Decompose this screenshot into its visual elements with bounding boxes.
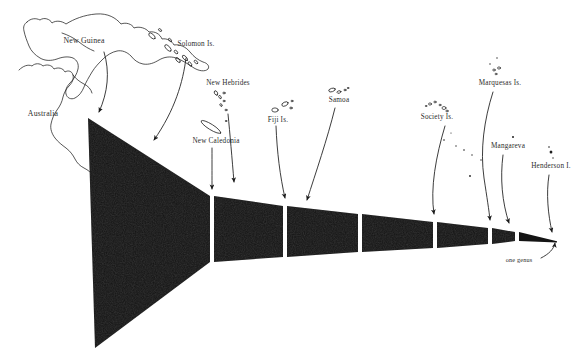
arrow-marquesas-is <box>482 92 493 220</box>
biogeography-figure <box>0 0 584 358</box>
arrow-one-genus <box>541 243 555 258</box>
henderson-island-shapes <box>548 146 554 159</box>
wedge-segment-7 <box>519 232 557 243</box>
new-caledonia-islet <box>225 120 227 121</box>
marquesas-islands-shapes <box>489 57 500 74</box>
label-one-genus: one genus <box>506 256 533 263</box>
new-guinea-outline <box>24 14 209 99</box>
arrow-new-guinea <box>99 52 107 112</box>
arrow-fiji-is <box>276 126 285 198</box>
arrow-solomon-is <box>154 58 186 140</box>
mangareva-shapes <box>512 136 514 138</box>
arrow-society-is <box>433 126 445 214</box>
arrow-mangareva <box>502 155 509 223</box>
label-new-guinea: New Guinea <box>63 36 104 45</box>
new-caledonia-shape <box>200 119 222 136</box>
new-hebrides-shapes <box>214 90 228 111</box>
society-islands-shapes <box>425 101 448 112</box>
label-new-hebrides: New Hebrides <box>206 79 250 87</box>
label-fiji-is: Fiji Is. <box>268 116 288 124</box>
label-mangareva: Mangareva <box>491 142 525 150</box>
label-marquesas-is: Marquesas Is. <box>479 79 522 87</box>
tuamotu-dots <box>443 132 481 177</box>
label-henderson-i: Henderson I. <box>531 162 571 170</box>
label-australia: Australia <box>28 109 58 118</box>
label-solomon-is: Solomon Is. <box>178 40 215 48</box>
fiji-islands-shapes <box>272 100 293 112</box>
samoa-shapes <box>328 87 349 93</box>
label-samoa: Samoa <box>329 96 350 104</box>
label-new-caledonia: New Caledonia <box>192 137 239 145</box>
arrow-samoa <box>307 108 335 200</box>
arrow-new-hebrides <box>228 114 234 182</box>
wedge-texture <box>88 118 515 348</box>
arrow-henderson-i <box>548 175 552 232</box>
label-society-is: Society Is. <box>421 113 454 121</box>
